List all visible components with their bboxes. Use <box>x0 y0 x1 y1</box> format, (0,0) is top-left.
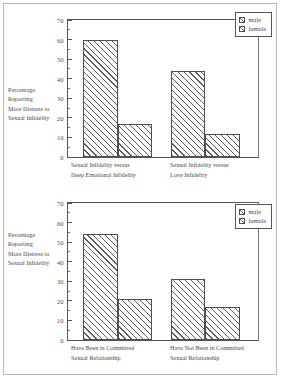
bar-group <box>83 20 155 157</box>
bar-group <box>171 20 243 157</box>
y-axis-tick-major <box>68 117 72 118</box>
y-axis-tick-minor <box>68 232 70 233</box>
bar-female <box>205 134 240 157</box>
legend-swatch-female-icon <box>239 26 245 32</box>
y-axis-tick-major <box>68 281 72 282</box>
bar-group <box>83 203 155 340</box>
y-axis-title-line: Percentage <box>8 85 66 94</box>
y-axis-tick-minor <box>68 29 70 30</box>
x-label-line: Love Infidelity <box>170 170 229 180</box>
bar-male <box>83 40 118 157</box>
y-axis-title-line: More Distress to <box>8 249 66 258</box>
y-axis-tick-major <box>68 340 72 341</box>
y-axis-tick-minor <box>68 251 70 252</box>
y-axis-tick-label: 70 <box>57 17 68 24</box>
legend-item-female: female <box>239 24 266 33</box>
x-axis-labels-bottom: Have Been in Committed Sexual Relationsh… <box>67 343 277 367</box>
y-axis-tick-label: 50 <box>57 56 68 63</box>
y-axis-tick-major <box>68 300 72 301</box>
y-axis-tick-minor <box>68 88 70 89</box>
y-axis-title-line: More Distress to <box>8 104 66 113</box>
y-axis-tick-major <box>68 261 72 262</box>
figure-page-frame: Percentage Reporting More Distress to Se… <box>3 3 277 375</box>
legend-label-female: female <box>249 25 266 32</box>
y-axis-tick-label: 60 <box>57 36 68 43</box>
x-label-line: Sexual Relationship <box>170 353 244 363</box>
chart-panel-top: Percentage Reporting More Distress to Se… <box>4 7 278 193</box>
y-axis-tick-label: 40 <box>57 75 68 82</box>
legend-item-female: female <box>239 216 266 225</box>
x-label-line: Sexual Infidelity versus <box>170 160 229 170</box>
y-axis-tick-major <box>68 78 72 79</box>
y-axis-tick-major <box>68 20 72 21</box>
y-axis-tick-minor <box>68 68 70 69</box>
y-axis-tick-label: 70 <box>57 200 68 207</box>
y-axis-tick-label: 50 <box>57 239 68 246</box>
legend-label-male: male <box>249 208 261 215</box>
legend-bottom: male female <box>235 204 272 229</box>
bar-female <box>205 307 240 340</box>
bar-male <box>83 234 118 340</box>
x-label-line: Have Not Been in Committed <box>170 343 244 353</box>
y-axis-tick-minor <box>68 127 70 128</box>
y-axis-tick-minor <box>68 108 70 109</box>
legend-label-male: male <box>249 16 261 23</box>
y-axis-tick-label: 30 <box>57 95 68 102</box>
y-axis-tick-major <box>68 222 72 223</box>
y-axis-tick-major <box>68 157 72 158</box>
x-axis-category-label: Have Not Been in Committed Sexual Relati… <box>170 343 244 362</box>
bar-female <box>118 124 153 157</box>
y-axis-tick-label: 20 <box>57 297 68 304</box>
bar-male <box>171 71 206 157</box>
x-axis-category-label: Have Been in Committed Sexual Relationsh… <box>71 343 134 362</box>
y-axis-tick-minor <box>68 310 70 311</box>
x-label-line: Sexual Relationship <box>71 353 134 363</box>
y-axis-tick-minor <box>68 212 70 213</box>
legend-item-male: male <box>239 15 266 24</box>
legend-swatch-female-icon <box>239 218 245 224</box>
legend-item-male: male <box>239 207 266 216</box>
bar-female <box>118 299 153 340</box>
bars-layer-bottom <box>68 203 258 340</box>
x-label-line: Sexual Infidelity versus <box>71 160 136 170</box>
x-axis-labels-top: Sexual Infidelity versus Deep Emotional … <box>67 160 277 184</box>
y-axis-tick-minor <box>68 330 70 331</box>
y-axis-tick-minor <box>68 291 70 292</box>
chart-panel-bottom: Percentage Reporting More Distress to Se… <box>4 190 278 376</box>
y-axis-tick-major <box>68 98 72 99</box>
legend-label-female: female <box>249 217 266 224</box>
legend-swatch-male-icon <box>239 209 245 215</box>
legend-top: male female <box>235 12 272 37</box>
y-axis-tick-major <box>68 242 72 243</box>
y-axis-tick-minor <box>68 147 70 148</box>
y-axis-tick-major <box>68 320 72 321</box>
y-axis-tick-minor <box>68 271 70 272</box>
x-label-line: Deep Emotional Infidelity <box>71 170 136 180</box>
plot-area-top: 010203040506070 <box>67 19 259 158</box>
y-axis-tick-label: 10 <box>57 134 68 141</box>
y-axis-tick-label: 40 <box>57 258 68 265</box>
x-label-line: Have Been in Committed <box>71 343 134 353</box>
x-axis-category-label: Sexual Infidelity versus Deep Emotional … <box>71 160 136 179</box>
y-axis-tick-label: 30 <box>57 278 68 285</box>
y-axis-tick-minor <box>68 49 70 50</box>
bar-male <box>171 279 206 340</box>
y-axis-tick-major <box>68 137 72 138</box>
x-axis-category-label: Sexual Infidelity versus Love Infidelity <box>170 160 229 179</box>
y-axis-tick-major <box>68 59 72 60</box>
plot-area-bottom: 010203040506070 <box>67 202 259 341</box>
legend-swatch-male-icon <box>239 17 245 23</box>
y-axis-tick-major <box>68 39 72 40</box>
y-axis-tick-major <box>68 203 72 204</box>
y-axis-tick-label: 10 <box>57 317 68 324</box>
y-axis-tick-label: 60 <box>57 219 68 226</box>
bar-group <box>171 203 243 340</box>
y-axis-tick-label: 20 <box>57 114 68 121</box>
bars-layer-top <box>68 20 258 157</box>
